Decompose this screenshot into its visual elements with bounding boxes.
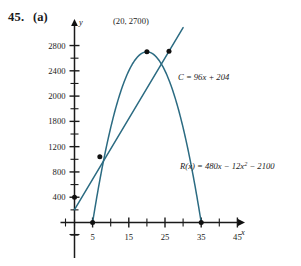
x-tick-label-5: 5: [90, 232, 94, 242]
y-tick-label-2400: 2400: [48, 66, 65, 76]
y-axis-label: y: [78, 18, 83, 27]
figure-root: 45. (a) 515253545 4008001200180020002400…: [0, 0, 301, 266]
x-axis-arrowhead: [238, 219, 245, 226]
y-tick-label-1600: 1800: [48, 116, 65, 126]
x-axis-label: x: [240, 228, 245, 237]
y-tick-label-1200: 1200: [48, 142, 65, 152]
x-axis-tick-labels: 515253545: [90, 232, 241, 242]
cost-equation-annotation: C = 96x + 204: [178, 72, 230, 82]
x-tick-label-35: 35: [197, 232, 206, 242]
axes-group: [61, 19, 246, 258]
vertex-annotation: (20, 2700): [113, 16, 149, 26]
revenue-root-left-point: [90, 220, 95, 225]
y-tick-label-400: 400: [53, 192, 66, 202]
x-tick-label-15: 15: [125, 232, 134, 242]
y-tick-label-2800: 2800: [48, 41, 65, 51]
y-tick-label-800: 800: [53, 167, 66, 177]
y-axis-arrowhead: [71, 19, 78, 26]
y-tick-label-2000: 2000: [48, 91, 65, 101]
cost-y-intercept-point: [72, 195, 77, 200]
vertex-point: [144, 49, 149, 54]
graph-canvas: 515253545 40080012001800200024002800 x y…: [0, 0, 301, 266]
revenue-root-right-point: [199, 220, 204, 225]
cost-line-curve: [75, 28, 184, 210]
upper-intersection-point: [166, 49, 171, 54]
lower-intersection-point: [97, 154, 102, 159]
y-axis-tick-labels: 40080012001800200024002800: [48, 41, 65, 203]
x-tick-label-25: 25: [161, 232, 170, 242]
revenue-equation-annotation: R(x) = 480x − 12x2 − 2100: [165, 160, 285, 171]
